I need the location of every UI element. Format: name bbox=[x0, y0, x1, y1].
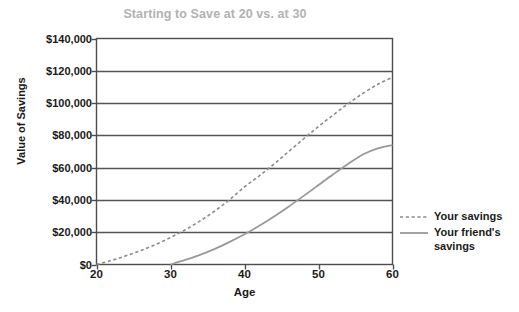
chart-legend: Your savings Your friend's savings bbox=[400, 210, 519, 255]
legend-item-your-savings: Your savings bbox=[400, 210, 519, 224]
legend-item-your-friends-savings: Your friend's savings bbox=[400, 226, 519, 253]
legend-label-your-savings: Your savings bbox=[434, 210, 502, 224]
gridlines bbox=[97, 72, 393, 233]
chart-figure: Starting to Save at 20 vs. at 30 Value o… bbox=[0, 0, 519, 312]
legend-swatch-dashed-line-icon bbox=[400, 210, 428, 224]
series-line-your-savings bbox=[97, 77, 393, 264]
plot-frame bbox=[97, 39, 393, 265]
legend-swatch-solid-line-icon bbox=[400, 226, 428, 240]
series-line-your-friends-savings bbox=[171, 145, 393, 264]
legend-label-your-friends-savings: Your friend's savings bbox=[434, 226, 516, 253]
plot-area bbox=[0, 0, 519, 312]
